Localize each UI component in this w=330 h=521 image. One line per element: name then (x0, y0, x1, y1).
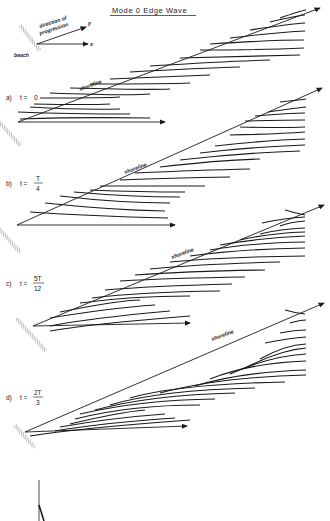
panel-d-shoreline-label: shoreline (210, 328, 234, 342)
y-axis-label: y (87, 20, 92, 26)
panel-c-shoreline-axis (33, 205, 324, 326)
panel-a-time-value: 0 (34, 94, 38, 101)
panel-c: c) t = 5T 12 shoreline (6, 205, 324, 352)
panel-b-time-den: 4 (36, 185, 40, 192)
panel-b-beach-hatch (0, 221, 22, 253)
panel-c-time-prefix: t = (20, 280, 28, 287)
panel-d-time-prefix: t = (20, 394, 28, 401)
beach-hatch-icon (19, 24, 42, 52)
orientation-legend: direction of progression y x beach (14, 14, 94, 58)
panel-a-shoreline-label: shoreline (78, 78, 102, 92)
panel-c-time-den: 12 (34, 285, 42, 292)
panel-c-shoreline-label: shoreline (170, 246, 194, 260)
panel-b-time-prefix: t = (20, 180, 28, 187)
panel-c-time-num: 5T (34, 275, 42, 282)
panel-a-beach-hatch (0, 114, 22, 146)
panel-b-label: b) (6, 180, 12, 188)
bottom-partial-figure (39, 480, 44, 521)
panel-c-crests (50, 210, 305, 331)
panel-d-beach-hatch (13, 424, 36, 449)
panel-c-label: c) (6, 280, 11, 288)
x-axis-label: x (89, 41, 94, 47)
panel-d-label: d) (6, 394, 12, 402)
panel-a-label: a) (6, 94, 12, 102)
edge-wave-figure: Mode 0 Edge Wave direction of progressio… (0, 0, 330, 521)
figure-title: Mode 0 Edge Wave (112, 6, 187, 15)
panel-b-time-num: T (36, 175, 40, 182)
beach-label: beach (14, 52, 29, 58)
panel-d-time-num: 2T (34, 389, 42, 396)
panel-a-time-prefix: t = (20, 94, 28, 101)
panel-d-time-den: 3 (36, 399, 40, 406)
